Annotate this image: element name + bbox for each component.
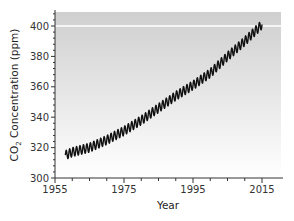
y-ticks: 300320340360380400 [30, 14, 55, 184]
x-tick-label: 1955 [42, 184, 67, 195]
plot-background [55, 12, 281, 178]
y-tick-label: 300 [30, 173, 49, 184]
x-ticks: 1955197519952015 [42, 178, 274, 195]
y-axis-title: CO2 Concentration (ppm) [8, 29, 23, 162]
co2-chart: 300320340360380400 1955197519952015 Year… [0, 0, 294, 221]
y-tick-label: 360 [30, 81, 49, 92]
x-axis-title: Year [156, 199, 180, 211]
x-tick-label: 2015 [249, 184, 274, 195]
x-tick-label: 1995 [180, 184, 205, 195]
x-tick-label: 1975 [111, 184, 136, 195]
y-tick-label: 400 [30, 21, 49, 32]
y-tick-label: 320 [30, 142, 49, 153]
y-tick-label: 380 [30, 51, 49, 62]
y-tick-label: 340 [30, 112, 49, 123]
